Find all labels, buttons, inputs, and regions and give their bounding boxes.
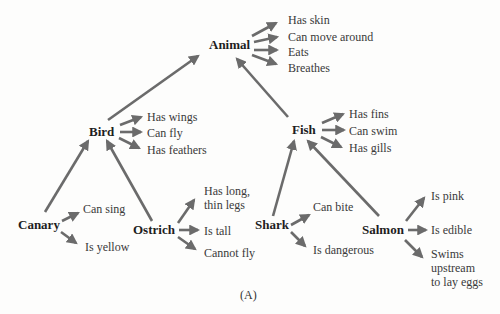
property-salmon-swims-line2: upstream <box>431 261 475 275</box>
property-shark-can-bite: Can bite <box>313 200 353 214</box>
property-ostrich-long-legs-line1: Has long, <box>204 184 250 198</box>
prop-arrow-ostrich-0 <box>178 200 194 223</box>
property-salmon-is-pink: Is pink <box>431 189 464 203</box>
prop-arrow-ostrich-2 <box>178 237 195 249</box>
property-fish-has-gills: Has gills <box>349 141 391 155</box>
prop-arrow-animal-1 <box>254 37 277 42</box>
property-animal-has-skin: Has skin <box>288 13 330 27</box>
property-animal-breathes: Breathes <box>288 61 330 75</box>
node-shark: Shark <box>255 218 289 232</box>
prop-arrow-animal-3 <box>252 55 276 64</box>
prop-arrow-fish-2 <box>321 137 341 147</box>
property-bird-can-fly: Can fly <box>147 126 183 140</box>
node-fish: Fish <box>292 123 316 137</box>
property-ostrich-is-tall: Is tall <box>204 224 231 238</box>
property-ostrich-cannot-fly: Cannot fly <box>204 246 255 260</box>
edge-canary-to-bird <box>45 141 88 212</box>
prop-arrow-salmon-0 <box>406 198 424 221</box>
edge-shark-to-fish <box>273 141 294 216</box>
edge-fish-to-animal <box>237 59 288 117</box>
property-shark-is-dangerous: Is dangerous <box>313 243 374 257</box>
figure-caption: (A) <box>240 288 257 303</box>
property-animal-can-move-around: Can move around <box>288 30 373 44</box>
node-ostrich: Ostrich <box>133 223 175 237</box>
node-salmon: Salmon <box>362 223 404 237</box>
property-ostrich-long-legs-line2: thin legs <box>204 198 245 212</box>
prop-arrow-shark-0 <box>291 215 309 225</box>
prop-arrow-animal-0 <box>252 23 276 36</box>
property-bird-has-wings: Has wings <box>147 110 197 124</box>
prop-arrow-canary-0 <box>62 213 78 221</box>
prop-arrow-canary-1 <box>61 232 76 243</box>
property-salmon-swims-line1: Swims <box>431 247 464 261</box>
property-bird-has-feathers: Has feathers <box>147 143 207 157</box>
property-salmon-is-edible: Is edible <box>431 223 472 237</box>
prop-arrow-bird-2 <box>119 138 139 148</box>
prop-arrow-shark-1 <box>291 232 305 246</box>
node-bird: Bird <box>89 125 114 139</box>
prop-arrow-fish-0 <box>322 114 343 123</box>
node-canary: Canary <box>18 218 60 232</box>
prop-arrow-bird-0 <box>120 117 141 125</box>
property-salmon-swims-line3: to lay eggs <box>431 275 483 289</box>
property-fish-can-swim: Can swim <box>349 124 397 138</box>
property-canary-can-sing: Can sing <box>83 202 125 216</box>
semantic-network-diagram: Animal Bird Fish Canary Ostrich Shark Sa… <box>0 0 500 314</box>
property-animal-eats: Eats <box>288 45 309 59</box>
prop-arrow-salmon-2 <box>405 240 422 257</box>
node-animal: Animal <box>209 38 250 52</box>
property-fish-has-fins: Has fins <box>349 107 389 121</box>
property-canary-is-yellow: Is yellow <box>85 240 129 254</box>
